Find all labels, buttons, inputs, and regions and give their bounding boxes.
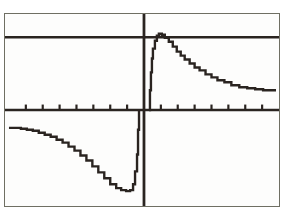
screenshot-root bbox=[0, 0, 286, 216]
curve-left-branch bbox=[9, 110, 139, 191]
graph-plot bbox=[5, 14, 279, 206]
curve-right-branch bbox=[149, 34, 276, 110]
calculator-screen bbox=[4, 13, 280, 207]
